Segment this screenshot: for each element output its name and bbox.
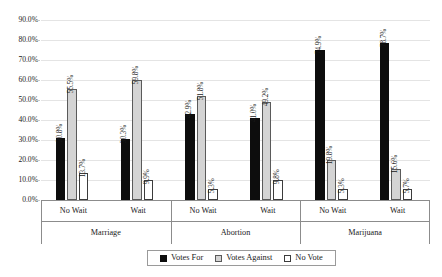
x-axis: No WaitWaitNo WaitWaitNo WaitWaitMarriag… — [41, 200, 430, 244]
y-axis-tick-label: 40.0% — [0, 116, 38, 124]
y-axis: 0.0%10.0%20.0%30.0%40.0%50.0%60.0%70.0%8… — [0, 20, 41, 200]
bar-value-label: 9.9% — [144, 169, 151, 184]
x-axis-subgroup: No Wait — [41, 200, 106, 221]
legend-label: Votes For — [171, 254, 203, 262]
legend-label: No Vote — [295, 254, 322, 262]
bar — [197, 96, 207, 200]
bar-value-label: 42.9% — [186, 100, 193, 119]
bar-value-label: 5.3% — [339, 179, 346, 194]
x-axis-separator — [429, 200, 430, 244]
x-axis-subgroup-label: No Wait — [171, 207, 236, 215]
x-axis-group: Marijuana — [300, 221, 430, 244]
y-axis-tick-label: 0.0% — [0, 196, 38, 204]
y-axis-tick-label: 70.0% — [0, 56, 38, 64]
legend-label: Votes Against — [226, 254, 272, 262]
bar-value-label: 78.7% — [381, 28, 388, 47]
y-axis-tick-label: 30.0% — [0, 136, 38, 144]
x-axis-subgroup-label: Wait — [236, 207, 301, 215]
legend-swatch-icon — [160, 255, 167, 262]
y-axis-tick-label: 90.0% — [0, 16, 38, 24]
x-axis-subgroup-label: Wait — [106, 207, 171, 215]
bar — [121, 139, 131, 200]
bar-value-label: 30.8% — [56, 124, 63, 143]
x-axis-tier-divider — [171, 221, 301, 222]
gridline — [41, 80, 430, 81]
legend-item[interactable]: No Vote — [284, 254, 322, 262]
y-axis-tick-mark — [37, 20, 40, 21]
bar — [391, 169, 401, 200]
x-axis-group-label: Abortion — [171, 229, 301, 237]
x-axis-subgroup-label: Wait — [365, 207, 430, 215]
bar-value-label: 41.0% — [251, 104, 258, 123]
x-axis-tier-divider — [300, 221, 430, 222]
bar-chart: 0.0%10.0%20.0%30.0%40.0%50.0%60.0%70.0%8… — [0, 0, 442, 277]
y-axis-tick-label: 20.0% — [0, 156, 38, 164]
x-axis-group: Abortion — [171, 221, 301, 244]
gridline — [41, 40, 430, 41]
x-axis-tier-divider — [41, 221, 171, 222]
bar — [380, 43, 390, 200]
legend-item[interactable]: Votes Against — [215, 254, 272, 262]
gridline — [41, 120, 430, 121]
x-axis-separator — [300, 200, 301, 244]
bar — [185, 114, 195, 200]
y-axis-tick-label: 80.0% — [0, 36, 38, 44]
bar-value-label: 55.5% — [68, 75, 75, 94]
legend-item[interactable]: Votes For — [160, 254, 203, 262]
x-axis-group-label: Marriage — [41, 229, 171, 237]
bar — [132, 80, 142, 200]
gridline — [41, 60, 430, 61]
bar — [327, 160, 337, 200]
x-axis-separator — [171, 200, 172, 244]
bar — [262, 102, 272, 200]
bar-value-label: 51.8% — [198, 82, 205, 101]
bar — [315, 50, 325, 200]
y-axis-tick-mark — [37, 120, 40, 121]
legend-swatch-icon — [215, 255, 222, 262]
y-axis-tick-mark — [37, 180, 40, 181]
gridline — [41, 160, 430, 161]
bar-value-label: 13.7% — [79, 158, 86, 177]
y-axis-tick-label: 10.0% — [0, 176, 38, 184]
bar — [67, 89, 77, 200]
gridline — [41, 140, 430, 141]
x-axis-subgroup-label: No Wait — [300, 207, 365, 215]
y-axis-tick-mark — [37, 100, 40, 101]
bar-value-label: 15.6% — [392, 154, 399, 173]
bar-value-label: 19.8% — [327, 146, 334, 165]
x-axis-group-label: Marijuana — [300, 229, 430, 237]
bar-value-label: 5.7% — [404, 178, 411, 193]
y-axis-tick-mark — [37, 60, 40, 61]
x-axis-separator — [41, 200, 42, 244]
y-axis-tick-mark — [37, 140, 40, 141]
y-axis-tick-mark — [37, 40, 40, 41]
x-axis-subgroup: No Wait — [171, 200, 236, 221]
bar — [250, 118, 260, 200]
bar-value-label: 74.9% — [316, 36, 323, 55]
x-axis-subgroup: No Wait — [300, 200, 365, 221]
x-axis-subgroup-label: No Wait — [41, 207, 106, 215]
y-axis-tick-mark — [37, 200, 40, 201]
bar-value-label: 49.2% — [262, 87, 269, 106]
chart-legend: Votes ForVotes AgainstNo Vote — [147, 250, 336, 266]
gridline — [41, 20, 430, 21]
bar-value-label: 9.8% — [274, 170, 281, 185]
bar-value-label: 30.3% — [121, 125, 128, 144]
bar — [56, 138, 66, 200]
bar-value-label: 5.3% — [209, 179, 216, 194]
x-axis-subgroup: Wait — [365, 200, 430, 221]
x-axis-subgroup: Wait — [106, 200, 171, 221]
legend-swatch-icon — [284, 255, 291, 262]
y-axis-tick-label: 50.0% — [0, 96, 38, 104]
gridline — [41, 180, 430, 181]
y-axis-tick-label: 60.0% — [0, 76, 38, 84]
bar-value-label: 59.8% — [133, 66, 140, 85]
x-axis-group: Marriage — [41, 221, 171, 244]
gridline — [41, 100, 430, 101]
y-axis-tick-mark — [37, 160, 40, 161]
x-axis-subgroup: Wait — [236, 200, 301, 221]
y-axis-tick-mark — [37, 80, 40, 81]
plot-area: 30.8%55.5%13.7%30.3%59.8%9.9%42.9%51.8%5… — [41, 20, 430, 200]
